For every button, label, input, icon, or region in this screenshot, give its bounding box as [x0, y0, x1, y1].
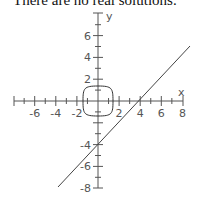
y-tick-label: -8 — [80, 182, 91, 195]
y-tick-label: -4 — [80, 139, 91, 152]
x-tick-label: -2 — [71, 107, 82, 120]
y-tick-label: 2 — [84, 73, 91, 86]
x-tick-label: 4 — [137, 107, 144, 120]
x-tick-label: 6 — [158, 107, 165, 120]
graph: -6-4-22468642-4-6-8 x y — [0, 0, 201, 205]
x-tick-label: 2 — [116, 107, 123, 120]
x-axis-label: x — [178, 86, 185, 99]
x-tick-label: 8 — [179, 107, 186, 120]
x-tick-label: -6 — [29, 107, 40, 120]
y-axis-label: y — [106, 10, 113, 23]
y-tick-label: 6 — [84, 30, 91, 43]
y-tick-label: 4 — [84, 51, 91, 64]
x-tick-label: -4 — [50, 107, 61, 120]
